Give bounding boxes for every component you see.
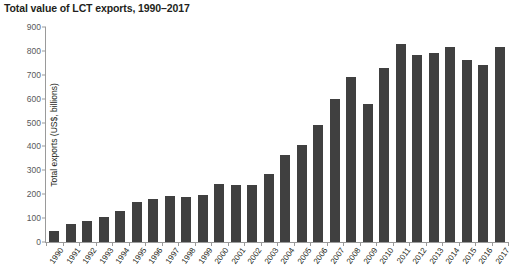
x-axis-tick-label: 2017 <box>494 246 512 266</box>
x-axis-tick-label: 1994 <box>114 246 132 266</box>
y-axis-tick-label: 200 <box>27 189 41 199</box>
bar <box>462 60 472 242</box>
x-axis-tick-mark <box>442 242 443 246</box>
x-axis-tick-label: 2015 <box>461 246 479 266</box>
x-axis-tick-label: 2011 <box>395 246 412 265</box>
x-axis-tick-mark <box>162 242 163 246</box>
x-axis-tick-label: 1999 <box>197 246 215 266</box>
y-axis-tick-label: 300 <box>27 165 41 175</box>
x-axis-tick-label: 1996 <box>147 246 165 266</box>
x-axis-tick-mark <box>244 242 245 246</box>
bar <box>297 145 307 242</box>
y-axis-tick-mark <box>42 218 46 219</box>
bar <box>478 65 488 242</box>
x-axis-tick-mark <box>112 242 113 246</box>
x-axis-tick-label: 2005 <box>296 246 314 266</box>
x-axis-tick-label: 2003 <box>263 246 281 266</box>
x-axis-tick-mark <box>129 242 130 246</box>
x-axis-tick-mark <box>310 242 311 246</box>
x-axis-tick-label: 1990 <box>48 246 66 266</box>
bar <box>429 53 439 242</box>
y-axis-tick-label: 100 <box>27 213 41 223</box>
x-axis-tick-mark <box>195 242 196 246</box>
y-axis-tick-label: 400 <box>27 141 41 151</box>
bar <box>412 55 422 242</box>
x-axis-tick-label: 2006 <box>312 246 330 266</box>
bar <box>346 77 356 242</box>
y-axis-tick-label: 900 <box>27 22 41 32</box>
bar <box>247 185 257 242</box>
bar <box>115 211 125 242</box>
bar <box>132 202 142 242</box>
x-axis-tick-mark <box>327 242 328 246</box>
chart-title: Total value of LCT exports, 1990–2017 <box>4 2 190 14</box>
y-axis-tick-label: 0 <box>36 237 41 247</box>
x-axis-tick-mark <box>79 242 80 246</box>
x-axis-tick-label: 1992 <box>81 246 99 266</box>
y-axis-tick-label: 700 <box>27 70 41 80</box>
y-axis-tick-mark <box>42 170 46 171</box>
x-axis-tick-mark <box>459 242 460 246</box>
bar <box>445 47 455 242</box>
bar <box>313 125 323 242</box>
plot-area: 0100200300400500600700800900 <box>46 27 508 242</box>
x-axis-tick-mark <box>475 242 476 246</box>
x-axis-tick-label: 2004 <box>279 246 297 266</box>
bar <box>214 184 224 242</box>
bar <box>49 231 59 242</box>
chart-figure: Total value of LCT exports, 1990–2017 To… <box>0 0 512 269</box>
bar <box>231 185 241 242</box>
y-axis-tick-mark <box>42 194 46 195</box>
x-axis-tick-label: 1998 <box>180 246 198 266</box>
y-axis-tick-mark <box>42 146 46 147</box>
x-axis-tick-label: 2016 <box>477 246 495 266</box>
x-axis-tick-label: 2009 <box>362 246 380 266</box>
x-axis-tick-mark <box>46 242 47 246</box>
x-axis-tick-label: 2012 <box>411 246 429 266</box>
y-axis-tick-mark <box>42 122 46 123</box>
y-axis-tick-label: 500 <box>27 118 41 128</box>
x-axis-tick-mark <box>508 242 509 246</box>
x-axis-tick-label: 1993 <box>98 246 116 266</box>
bar <box>363 104 373 242</box>
y-axis-tick-label: 800 <box>27 46 41 56</box>
x-axis-tick-mark <box>492 242 493 246</box>
bar <box>198 195 208 242</box>
x-axis-tick-mark <box>426 242 427 246</box>
bar <box>148 199 158 242</box>
x-axis-tick-label: 2000 <box>213 246 231 266</box>
bar <box>99 217 109 242</box>
x-axis-tick-mark <box>211 242 212 246</box>
bar <box>165 196 175 242</box>
x-axis-tick-label: 2001 <box>230 246 248 266</box>
bar <box>66 224 76 242</box>
bar <box>181 197 191 242</box>
y-axis-tick-mark <box>42 98 46 99</box>
x-axis-tick-label: 1995 <box>131 246 149 266</box>
y-axis-tick-label: 600 <box>27 94 41 104</box>
x-axis-tick-label: 2007 <box>329 246 347 266</box>
x-axis-tick-mark <box>409 242 410 246</box>
bar <box>379 68 389 242</box>
x-axis-tick-mark <box>343 242 344 246</box>
x-axis-tick-label: 2013 <box>428 246 446 266</box>
x-axis-tick-label: 2008 <box>345 246 363 266</box>
x-axis-tick-mark <box>376 242 377 246</box>
x-axis-tick-mark <box>294 242 295 246</box>
bar <box>264 174 274 242</box>
x-axis-tick-label: 2010 <box>378 246 396 266</box>
x-axis-tick-mark <box>393 242 394 246</box>
x-axis-tick-mark <box>261 242 262 246</box>
bar <box>396 44 406 242</box>
bar <box>280 155 290 242</box>
x-axis-tick-mark <box>360 242 361 246</box>
x-axis-tick-mark <box>96 242 97 246</box>
x-axis-tick-label: 2014 <box>444 246 462 266</box>
x-axis-tick-label: 2002 <box>246 246 264 266</box>
x-axis-tick-mark <box>228 242 229 246</box>
x-axis-tick-mark <box>277 242 278 246</box>
x-axis-tick-mark <box>63 242 64 246</box>
bar <box>330 99 340 242</box>
y-axis-tick-mark <box>42 27 46 28</box>
x-axis-tick-label: 1997 <box>164 246 182 266</box>
